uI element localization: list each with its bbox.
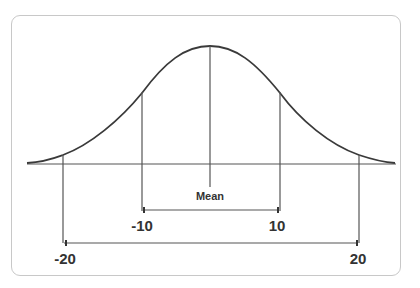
minus-20-label: -20 (54, 250, 76, 267)
normal-curve-diagram (0, 0, 420, 288)
bell-curve (27, 46, 395, 163)
plus-20-label: 20 (350, 250, 367, 267)
mean-label: Mean (196, 190, 224, 202)
minus-10-label: -10 (131, 217, 153, 234)
plus-10-label: 10 (269, 217, 286, 234)
